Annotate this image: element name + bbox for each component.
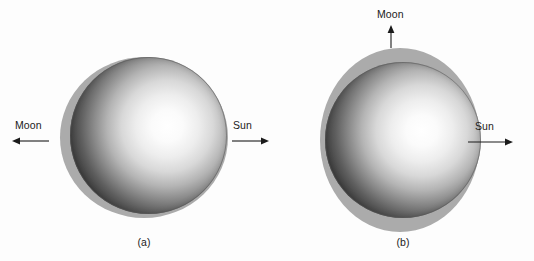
moon-arrow-up-icon-b	[386, 25, 396, 49]
body-outline-b	[325, 62, 481, 218]
celestial-body-a	[70, 57, 227, 214]
panel-b: Moon Sun (b)	[267, 0, 534, 261]
moon-label-b: Moon	[377, 8, 404, 20]
panel-caption-a: (a)	[118, 236, 170, 248]
moon-label-a: Moon	[15, 119, 42, 131]
celestial-body-b	[325, 62, 481, 218]
panel-a: Moon Sun (a)	[0, 0, 267, 261]
sun-arrow-right-icon-b	[467, 137, 513, 147]
sun-arrow-right-icon-a	[231, 136, 269, 146]
sun-label-a: Sun	[233, 119, 252, 131]
tidal-bulge-figure: Moon Sun (a) Moon	[0, 0, 534, 261]
moon-arrow-left-icon-a	[12, 136, 50, 146]
sun-label-b: Sun	[475, 120, 494, 132]
body-outline-a	[70, 57, 227, 214]
panel-caption-b: (b)	[377, 236, 429, 248]
